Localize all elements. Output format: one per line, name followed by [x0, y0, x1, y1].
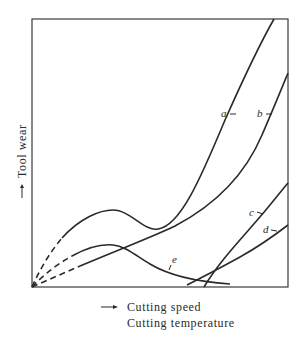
tick-d [271, 230, 277, 231]
x-axis-label-line1: Cutting speed [127, 300, 201, 314]
y-axis-label-group: Tool wear [15, 124, 29, 198]
tick-c [257, 212, 263, 214]
curve-b [32, 73, 288, 287]
curve-a [32, 19, 274, 287]
y-axis-label: Tool wear [15, 124, 29, 178]
x-axis-label-line2: Cutting temperature [127, 316, 235, 330]
tool-wear-chart: a b c d e Tool wear Cutting speed Cuttin… [0, 0, 305, 342]
label-e: e [172, 253, 177, 265]
plot-frame [32, 19, 288, 287]
tick-e [169, 265, 171, 270]
label-d: d [263, 223, 269, 235]
x-axis-label-group: Cutting speed Cutting temperature [101, 300, 235, 330]
curve-e [32, 245, 230, 287]
label-a: a [221, 107, 227, 119]
label-b: b [257, 107, 263, 119]
label-c: c [249, 206, 254, 218]
curve-d [187, 225, 288, 285]
